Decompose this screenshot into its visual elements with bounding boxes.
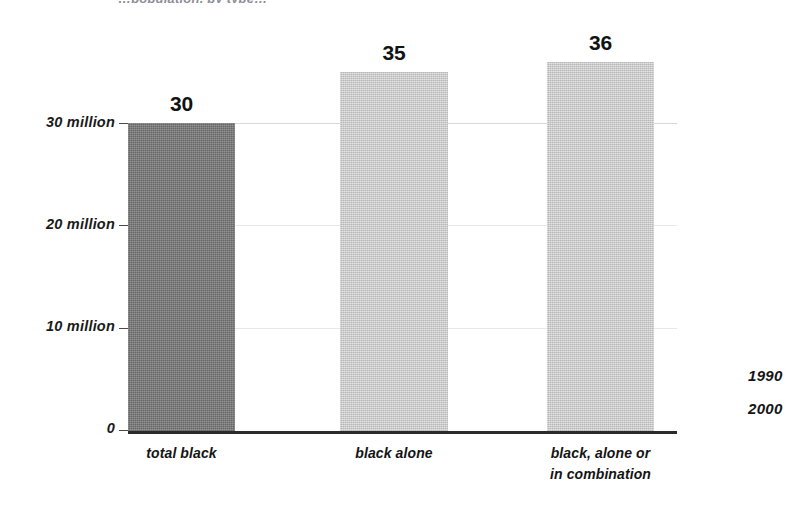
legend: 1990 2000 bbox=[705, 365, 805, 431]
bar-black-alone-2000 bbox=[340, 72, 448, 432]
legend-item-2000: 2000 bbox=[705, 398, 805, 431]
y-axis-label-20: 20 million bbox=[46, 216, 115, 232]
bar-total-black-1990 bbox=[128, 123, 235, 432]
y-axis-tick-30 bbox=[119, 123, 128, 124]
legend-item-1990: 1990 bbox=[705, 365, 805, 398]
value-label-black-alone-or-in-combination: 36 bbox=[547, 31, 654, 55]
y-axis-label-10: 10 million bbox=[46, 318, 115, 334]
legend-swatch-1990 bbox=[705, 365, 731, 390]
legend-label-1990: 1990 bbox=[748, 367, 783, 384]
y-axis-tick-0 bbox=[119, 430, 128, 431]
plot-area bbox=[128, 20, 677, 432]
bar-black-alone-or-in-combination-2000 bbox=[547, 62, 654, 432]
y-axis-tick-20 bbox=[119, 225, 128, 226]
x-axis-label-line-1: black, alone or bbox=[527, 443, 674, 464]
x-axis-label-total-black: total black bbox=[108, 443, 255, 464]
legend-swatch-2000 bbox=[705, 398, 731, 423]
value-label-total-black: 30 bbox=[128, 92, 235, 116]
y-axis-tick-10 bbox=[119, 328, 128, 329]
x-axis-label-line-2: in combination bbox=[527, 464, 674, 485]
chart-title-remnant: …population, by type… bbox=[118, 0, 538, 3]
x-axis-label-black-alone: black alone bbox=[320, 443, 468, 464]
value-label-black-alone: 35 bbox=[340, 41, 448, 65]
x-axis-line bbox=[128, 431, 677, 434]
bar-chart-figure: …population, by type… 30 million 20 mill… bbox=[0, 0, 809, 514]
y-axis-labels: 30 million 20 million 10 million 0 bbox=[0, 0, 115, 514]
x-axis-label-black-alone-or-in-combination: black, alone or in combination bbox=[527, 443, 674, 485]
y-axis-label-0: 0 bbox=[107, 420, 115, 436]
legend-label-2000: 2000 bbox=[748, 400, 783, 417]
y-axis-label-30: 30 million bbox=[46, 114, 115, 130]
